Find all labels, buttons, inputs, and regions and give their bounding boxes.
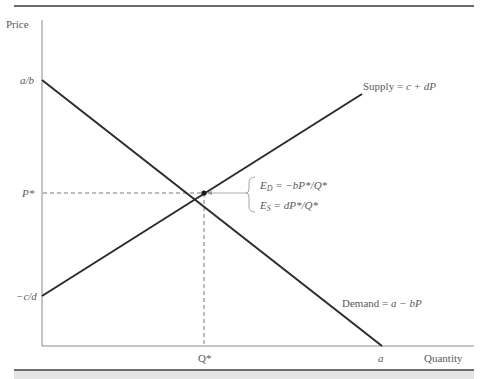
elasticity-supply: ES = dP*/Q* — [259, 199, 318, 213]
supply-line — [42, 94, 362, 296]
x-tick-q-star: Q* — [198, 352, 211, 364]
x-axis-label: Quantity — [424, 352, 463, 364]
demand-label: Demand = a − bP — [342, 297, 422, 309]
elasticity-demand: ED = −bP*/Q* — [259, 179, 328, 193]
supply-label: Supply = c + dP — [363, 80, 436, 92]
y-tick-minus-c-over-d: −c/d — [16, 290, 37, 302]
x-tick-a: a — [378, 352, 384, 364]
bottom-band — [14, 371, 474, 379]
equilibrium-point — [201, 190, 206, 195]
y-tick-a-over-b: a/b — [20, 74, 35, 86]
supply-demand-diagram: Price a/b P* −c/d Q* a Quantity Supply =… — [0, 0, 480, 379]
demand-line — [42, 80, 382, 346]
brace-icon — [246, 177, 255, 212]
y-tick-p-star: P* — [21, 187, 35, 199]
y-axis-label: Price — [6, 18, 29, 30]
